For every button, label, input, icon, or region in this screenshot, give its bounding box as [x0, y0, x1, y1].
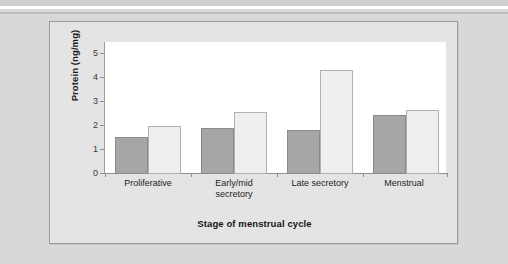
y-tick-label-0: 0	[82, 168, 98, 178]
bar-late-secretory-series1	[287, 130, 320, 174]
bar-menstrual-series1	[373, 115, 406, 174]
x-category-label-proliferative: Proliferative	[105, 178, 191, 189]
x-category-label-late-secretory: Late secretory	[277, 178, 363, 189]
bar-late-secretory-series2	[320, 70, 353, 174]
y-tick-label-1: 1	[82, 144, 98, 154]
bar-proliferative-series1	[115, 137, 148, 174]
x-category-label-menstrual: Menstrual	[361, 178, 447, 189]
y-tick-mark-3	[100, 101, 104, 102]
bars-layer	[105, 42, 446, 174]
y-tick-mark-2	[100, 125, 104, 126]
x-tick-mark-0	[105, 173, 106, 177]
y-tick-mark-5	[100, 53, 104, 54]
x-axis-title: Stage of menstrual cycle	[50, 218, 459, 229]
y-tick-label-4: 4	[82, 72, 98, 82]
x-tick-mark-1	[191, 173, 192, 177]
bar-early-mid-secretory-series2	[234, 112, 267, 174]
figure-root: Protein (ng/mg) 0 1 2 3 4 5	[0, 0, 508, 264]
bar-menstrual-series2	[406, 110, 439, 174]
y-tick-mark-4	[100, 77, 104, 78]
y-axis-title: Protein (ng/mg)	[69, 11, 80, 121]
x-category-label-early-mid-secretory: Early/mid secretory	[191, 178, 277, 200]
chart-panel: Protein (ng/mg) 0 1 2 3 4 5	[49, 21, 458, 244]
bar-proliferative-series2	[148, 126, 181, 174]
y-tick-label-2: 2	[82, 120, 98, 130]
x-tick-mark-4	[447, 173, 448, 177]
x-tick-mark-3	[363, 173, 364, 177]
y-tick-label-5: 5	[82, 48, 98, 58]
y-tick-label-3: 3	[82, 96, 98, 106]
page-top-rule-highlight	[0, 6, 508, 9]
x-tick-mark-2	[277, 173, 278, 177]
bar-early-mid-secretory-series1	[201, 128, 234, 174]
y-tick-mark-0	[100, 173, 104, 174]
y-tick-mark-1	[100, 149, 104, 150]
